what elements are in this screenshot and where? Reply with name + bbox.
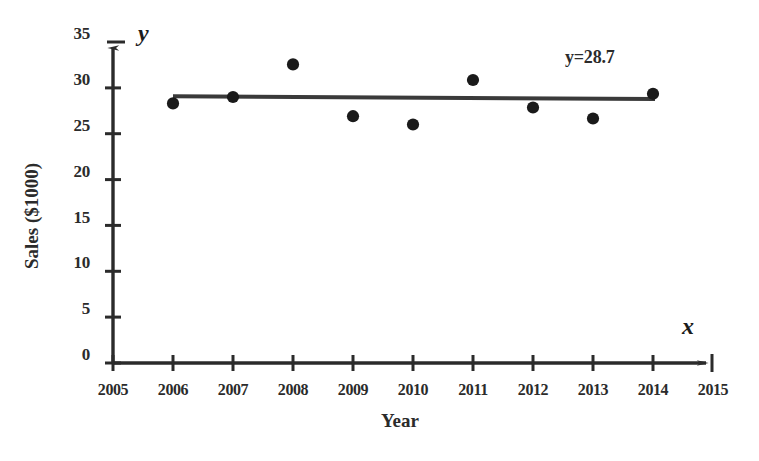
x-tick-label-2012: 2012 — [502, 381, 564, 399]
x-tick-label-2007: 2007 — [202, 381, 264, 399]
x-axis-title: Year — [330, 410, 470, 432]
y-tick-label-30: 30 — [50, 70, 90, 90]
x-axis — [113, 354, 712, 372]
scatter-chart: 35 30 25 20 15 10 5 0 2005 2006 2007 200… — [0, 0, 759, 461]
data-point — [527, 101, 539, 113]
y-tick-label-0: 0 — [50, 345, 90, 365]
y-axis-variable-label: y — [138, 20, 149, 47]
data-point — [587, 112, 599, 124]
trend-line-equation-label: y=28.7 — [565, 47, 615, 68]
x-tick-label-2015: 2015 — [682, 381, 744, 399]
data-point — [287, 58, 299, 70]
y-tick-label-25: 25 — [50, 116, 90, 136]
y-axis — [105, 42, 125, 363]
y-axis-title: Sales ($1000) — [21, 121, 43, 311]
x-tick-label-2005: 2005 — [82, 381, 144, 399]
x-tick-label-2014: 2014 — [622, 381, 684, 399]
data-point — [227, 91, 239, 103]
y-tick-label-20: 20 — [50, 162, 90, 182]
y-tick-label-15: 15 — [50, 208, 90, 228]
data-point — [407, 118, 419, 130]
x-axis-variable-label: x — [682, 313, 694, 340]
x-tick-label-2008: 2008 — [262, 381, 324, 399]
x-tick-label-2013: 2013 — [562, 381, 624, 399]
y-tick-label-35: 35 — [50, 24, 90, 44]
data-point — [647, 88, 659, 100]
trend-line — [173, 96, 655, 99]
x-tick-label-2006: 2006 — [142, 381, 204, 399]
y-tick-label-5: 5 — [50, 299, 90, 319]
x-tick-label-2010: 2010 — [382, 381, 444, 399]
data-points — [167, 58, 659, 130]
x-tick-label-2011: 2011 — [442, 381, 504, 399]
data-point — [167, 97, 179, 109]
data-point — [347, 110, 359, 122]
y-tick-label-10: 10 — [50, 253, 90, 273]
x-tick-label-2009: 2009 — [322, 381, 384, 399]
data-point — [467, 74, 479, 86]
